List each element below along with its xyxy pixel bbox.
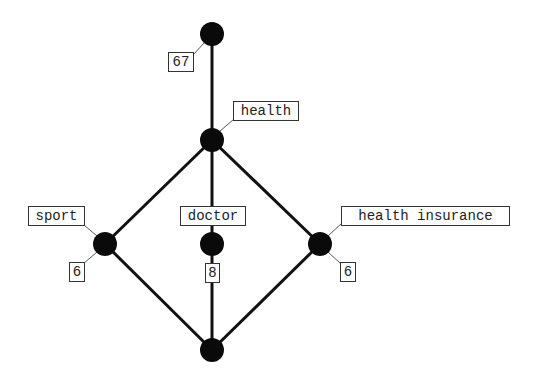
node-bottom[interactable] (200, 338, 224, 362)
edge-health-insurance-bottom (212, 244, 320, 350)
leader-sport-concept (84, 225, 97, 236)
label-health-insurance-count: 6 (340, 262, 356, 282)
label-sport-count: 6 (69, 262, 85, 282)
label-health-concept: health (233, 101, 299, 121)
label-doctor-concept: doctor (180, 206, 246, 226)
node-sport[interactable] (93, 232, 117, 256)
lattice-diagram (0, 0, 537, 383)
label-health-insurance-concept: health insurance (341, 206, 510, 226)
node-health-insurance[interactable] (308, 232, 332, 256)
leader-sport-count (83, 252, 97, 264)
node-doctor[interactable] (200, 232, 224, 256)
leader-health-insurance-concept (328, 223, 342, 236)
edge-sport-bottom (105, 244, 212, 350)
label-top-count: 67 (168, 52, 194, 72)
node-health[interactable] (200, 128, 224, 152)
leader-top-count (193, 42, 205, 55)
leader-health-concept (219, 119, 234, 132)
edge-health-sport (105, 140, 212, 244)
node-top[interactable] (200, 22, 224, 46)
label-sport-concept: sport (28, 206, 85, 226)
label-doctor-count: 8 (205, 263, 220, 283)
edge-health-health-insurance (212, 140, 320, 244)
